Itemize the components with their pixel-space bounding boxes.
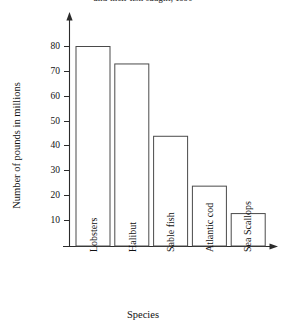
x-category-label-halibut: Halibut (127, 222, 138, 252)
y-tick-label-20: 20 (36, 190, 60, 200)
y-tick-label-50: 50 (36, 116, 60, 126)
y-tick-label-70: 70 (36, 66, 60, 76)
y-tick-label-80: 80 (36, 41, 60, 51)
y-axis-title: Number of pounds in millions (11, 66, 22, 226)
y-axis-arrowhead (66, 12, 72, 21)
y-tick-label-60: 60 (36, 91, 60, 101)
x-category-label-sable-fish: Sable fish (165, 212, 176, 252)
bar-lobsters (76, 47, 110, 247)
x-category-label-sea-scallops: Sea Scallops (242, 201, 253, 252)
x-category-label-lobsters: Lobsters (88, 218, 99, 252)
y-tick-label-30: 30 (36, 165, 60, 175)
y-tick-label-40: 40 (36, 140, 60, 150)
x-category-label-atlantic-cod: Atlantic cod (204, 203, 215, 252)
bar-halibut (115, 64, 149, 246)
bar-chart-figure: and their fish caught, 1990 (0, 0, 286, 326)
y-tick-label-10: 10 (36, 215, 60, 225)
plot-area: 10 20 30 40 50 60 70 80 Lobsters Halibut… (0, 0, 286, 326)
x-axis-arrowhead (270, 244, 279, 250)
x-axis-title: Species (0, 309, 286, 320)
